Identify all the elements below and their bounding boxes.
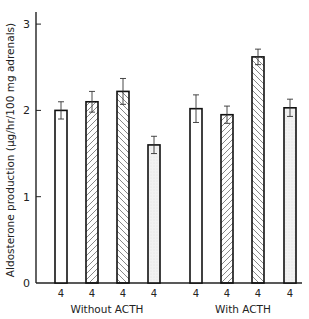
group-label-with-acth: With ACTH xyxy=(215,303,271,315)
bars xyxy=(55,49,296,283)
group-label-without-acth: Without ACTH xyxy=(70,303,143,315)
bar xyxy=(148,145,160,283)
n-label: 4 xyxy=(224,288,230,299)
bar xyxy=(55,110,67,283)
bar-chart: Aldosterone production (µg/hr/100 mg adr… xyxy=(0,0,309,319)
y-tick-label: 1 xyxy=(23,191,30,204)
bar xyxy=(86,102,98,283)
n-label: 4 xyxy=(120,288,126,299)
n-label: 4 xyxy=(151,288,157,299)
n-label: 4 xyxy=(255,288,261,299)
y-axis-label: Aldosterone production (µg/hr/100 mg adr… xyxy=(4,23,16,277)
y-ticks: 0123 xyxy=(23,18,41,290)
bar xyxy=(190,109,202,283)
bar xyxy=(252,57,264,283)
bar xyxy=(117,91,129,283)
y-tick-label: 3 xyxy=(23,18,30,31)
y-tick-label: 0 xyxy=(23,277,30,290)
n-label: 4 xyxy=(89,288,95,299)
bar xyxy=(284,108,296,283)
bar xyxy=(221,115,233,283)
n-label: 4 xyxy=(287,288,293,299)
y-tick-label: 2 xyxy=(23,104,30,117)
x-labels: 44444444 xyxy=(58,288,293,299)
n-label: 4 xyxy=(58,288,64,299)
n-label: 4 xyxy=(193,288,199,299)
